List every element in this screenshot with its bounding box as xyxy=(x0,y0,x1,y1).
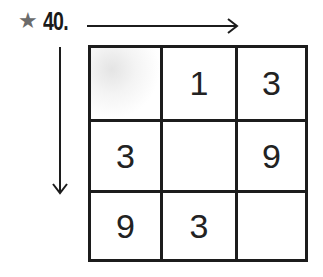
grid-cell-r3c2: 3 xyxy=(163,193,238,259)
grid-cell-r2c2 xyxy=(163,122,238,193)
right-arrow-icon xyxy=(87,19,237,33)
grid-cell-r3c1: 9 xyxy=(91,193,163,259)
grid-cell-r1c1 xyxy=(91,48,163,122)
grid-cell-r1c3: 3 xyxy=(238,48,305,122)
grid-cell-r2c3: 9 xyxy=(238,122,305,193)
down-arrow-icon xyxy=(53,47,67,193)
grid-cell-r3c3 xyxy=(238,193,305,259)
number-grid: 1 3 3 9 9 3 xyxy=(88,45,308,262)
grid-cell-r1c2: 1 xyxy=(163,48,238,122)
grid-cell-r2c1: 3 xyxy=(91,122,163,193)
